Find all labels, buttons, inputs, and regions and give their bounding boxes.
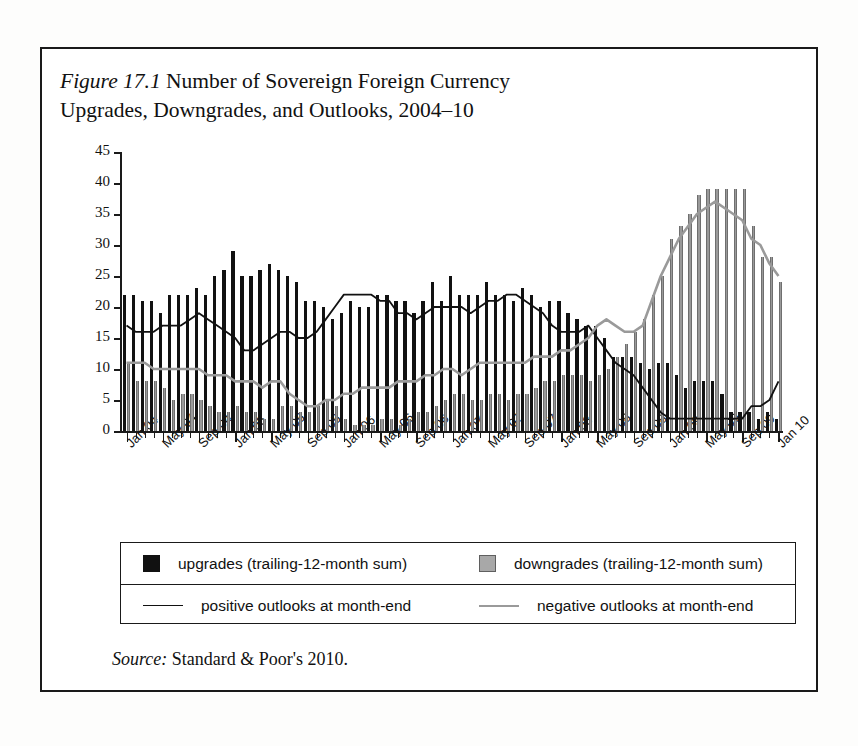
x-tick-mark [190, 433, 191, 438]
legend-label-negative-outlooks: negative outlooks at month-end [537, 597, 753, 615]
bar-downgrades [697, 195, 700, 431]
bar-downgrades [679, 226, 682, 431]
legend-entry-downgrades: downgrades (trailing-12-month sum) [479, 543, 763, 584]
bar-downgrades [516, 394, 519, 431]
x-tick-mark [262, 433, 263, 438]
bar-downgrades [543, 381, 546, 431]
x-tick-mark [588, 433, 589, 438]
bar-downgrades [489, 394, 492, 431]
figure-caption: Figure 17.1 Number of Sovereign Foreign … [60, 67, 660, 125]
bar-downgrades [245, 412, 248, 431]
bar-downgrades [317, 406, 320, 431]
bar-upgrades [123, 295, 126, 431]
bar-upgrades [757, 419, 760, 431]
y-tick-label: 0 [66, 421, 110, 438]
bar-upgrades [630, 357, 633, 431]
bar-upgrades [222, 270, 225, 431]
bar-upgrades [412, 313, 415, 431]
bar-downgrades [480, 400, 483, 431]
bar-downgrades [643, 319, 646, 431]
legend-swatch-black-square-icon [143, 555, 160, 572]
bar-downgrades [263, 419, 266, 431]
y-tick-label: 5 [66, 390, 110, 407]
bar-downgrades [435, 406, 438, 431]
x-tick-mark [625, 433, 626, 438]
figure-number: Figure 17.1 [60, 69, 161, 93]
x-tick-mark [480, 433, 481, 438]
bar-downgrades [553, 381, 556, 431]
bar-upgrades [449, 276, 452, 431]
x-tick-mark [769, 433, 770, 438]
legend-label-downgrades: downgrades (trailing-12-month sum) [514, 555, 763, 573]
bar-downgrades [734, 189, 737, 431]
bar-downgrades [770, 257, 773, 431]
bar-downgrades [145, 381, 148, 431]
legend-entry-positive-outlooks: positive outlooks at month-end [143, 585, 411, 626]
bar-downgrades [688, 214, 691, 431]
y-tick-label: 35 [66, 204, 110, 221]
bar-upgrades [729, 412, 732, 431]
bar-downgrades [417, 412, 420, 431]
legend-label-positive-outlooks: positive outlooks at month-end [201, 597, 411, 615]
y-tick-label: 15 [66, 328, 110, 345]
bar-upgrades [494, 295, 497, 431]
legend-entry-upgrades: upgrades (trailing-12-month sum) [143, 543, 407, 584]
bar-upgrades [476, 295, 479, 431]
legend-row-1: upgrades (trailing-12-month sum) downgra… [121, 543, 795, 584]
bar-downgrades [390, 419, 393, 431]
bar-downgrades [217, 412, 220, 431]
bar-downgrades [154, 381, 157, 431]
bar-upgrades [458, 295, 461, 431]
bar-downgrades [399, 425, 402, 431]
x-tick-mark [154, 433, 155, 438]
y-tick-mark [114, 214, 121, 216]
bar-downgrades [471, 400, 474, 431]
bar-upgrades [621, 357, 624, 431]
bar-downgrades [661, 276, 664, 431]
y-tick-mark [114, 369, 121, 371]
bar-upgrades [141, 301, 144, 431]
bar-downgrades [444, 400, 447, 431]
bar-downgrades [344, 419, 347, 431]
bar-upgrades [766, 412, 769, 431]
source-note: Source: Standard & Poor's 2010. [112, 649, 348, 670]
bar-upgrades [322, 307, 325, 431]
x-tick-mark [226, 433, 227, 438]
bar-downgrades [208, 406, 211, 431]
y-tick-mark [114, 400, 121, 402]
y-tick-mark [114, 183, 121, 185]
figure-frame: Figure 17.1 Number of Sovereign Foreign … [40, 47, 818, 692]
bar-upgrades [702, 381, 705, 431]
bar-downgrades [571, 375, 574, 431]
bar-downgrades [353, 425, 356, 431]
bar-upgrades [403, 301, 406, 431]
bar-upgrades [539, 307, 542, 431]
bar-upgrades [566, 313, 569, 431]
x-tick-mark [697, 433, 698, 438]
bar-downgrades [172, 400, 175, 431]
bar-downgrades [743, 189, 746, 431]
y-tick-label: 30 [66, 235, 110, 252]
bar-downgrades [670, 239, 673, 431]
bar-upgrades [675, 375, 678, 431]
bar-upgrades [738, 412, 741, 431]
bar-upgrades [177, 295, 180, 431]
bar-downgrades [761, 257, 764, 431]
bar-downgrades [299, 412, 302, 431]
bar-downgrades [525, 394, 528, 431]
bar-upgrades [231, 251, 234, 431]
x-tick-mark [733, 433, 734, 438]
bar-downgrades [199, 400, 202, 431]
bar-downgrades [380, 419, 383, 431]
chart-legend: upgrades (trailing-12-month sum) downgra… [120, 542, 796, 624]
bar-upgrades [313, 301, 316, 431]
y-tick-mark [114, 152, 121, 154]
bar-downgrades [362, 425, 365, 431]
bar-upgrades [213, 276, 216, 431]
bar-downgrades [706, 189, 709, 431]
x-tick-mark [552, 433, 553, 438]
bar-upgrades [720, 394, 723, 431]
y-tick-mark [114, 245, 121, 247]
bar-downgrades [752, 226, 755, 431]
bar-downgrades [227, 412, 230, 431]
